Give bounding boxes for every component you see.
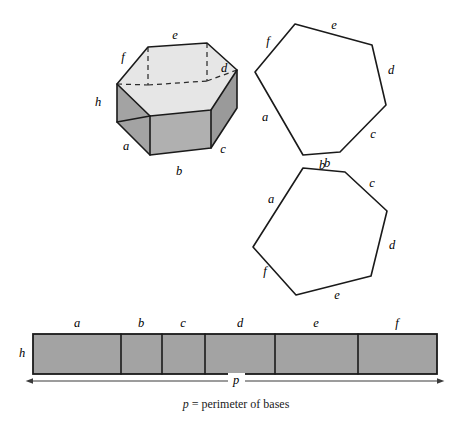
strip-segment-label-d: d — [237, 316, 244, 330]
top-base-label-e: e — [331, 18, 337, 32]
bottom-base-hexagon-group: b c d e f a — [253, 156, 396, 302]
figure-caption: p = perimeter of bases — [182, 397, 290, 411]
bottom-base-label-e: e — [334, 288, 340, 302]
top-base-hexagon — [255, 24, 386, 155]
strip-segment-label-b: b — [138, 316, 144, 330]
bottom-base-label-f: f — [263, 264, 268, 278]
diagram-canvas: e f d h a b c e f d c b a b c d e — [0, 0, 464, 423]
prism-height-label-h: h — [95, 95, 101, 109]
strip-height-label-h: h — [19, 346, 25, 360]
bottom-base-label-d: d — [389, 238, 396, 252]
bottom-base-label-c: c — [369, 176, 375, 190]
caption-rest: = perimeter of bases — [189, 397, 290, 411]
figure-root: e f d h a b c e f d c b a b c d e — [0, 0, 464, 423]
prism-edge-label-b: b — [176, 164, 182, 178]
strip-segment-label-e: e — [313, 316, 319, 330]
caption-group: p = perimeter of bases — [182, 397, 290, 411]
top-base-label-d: d — [388, 63, 395, 77]
prism-edge-label-e: e — [172, 28, 178, 42]
prism-edge-label-c: c — [220, 142, 226, 156]
strip-segment-label-f: f — [395, 316, 400, 330]
hexagonal-prism-group: e f d h a b c — [95, 28, 237, 178]
strip-segment-label-c: c — [180, 316, 186, 330]
bottom-base-hexagon — [253, 168, 387, 295]
top-base-label-c: c — [370, 127, 376, 141]
lateral-surface-strip-group: h a b c d e f — [19, 316, 437, 374]
caption-symbol: p — [182, 397, 189, 411]
prism-edge-label-a: a — [123, 139, 129, 153]
prism-edge-label-f: f — [121, 50, 126, 64]
top-base-label-f: f — [266, 34, 271, 48]
strip-segment-label-a: a — [74, 316, 80, 330]
top-base-hexagon-group: e f d c b a — [255, 18, 395, 172]
perimeter-dimension-group: p — [33, 373, 437, 388]
bottom-base-label-a: a — [268, 192, 274, 206]
strip-body — [33, 334, 437, 374]
prism-edge-label-d: d — [221, 61, 228, 75]
perimeter-label-p: p — [232, 373, 239, 387]
bottom-base-label-b: b — [324, 156, 330, 170]
top-base-label-a: a — [262, 110, 268, 124]
